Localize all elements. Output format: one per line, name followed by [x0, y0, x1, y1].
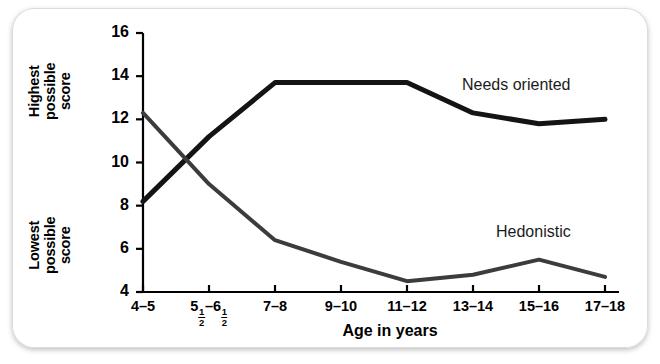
- series-line-hedonistic: [143, 113, 605, 281]
- series-label-hedonistic: Hedonistic: [496, 223, 571, 241]
- series-label-needs-oriented: Needs oriented: [462, 76, 571, 94]
- series-lines-group: [143, 83, 605, 282]
- chart-plot-area: Highest possible score Lowest possible s…: [0, 0, 660, 364]
- chart-svg-canvas: [0, 0, 660, 364]
- axes-group: [136, 33, 619, 292]
- x-axis-title: Age in years: [180, 322, 600, 340]
- series-line-needs-oriented: [143, 83, 605, 202]
